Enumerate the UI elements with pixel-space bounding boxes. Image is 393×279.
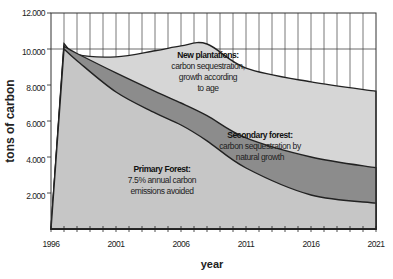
- annotation-line: to age: [197, 83, 219, 93]
- y-tick-8000: 8.000: [26, 83, 46, 93]
- carbon-area-chart: 2.000 4.000 6.000 8.000 10.000 12.000 19…: [0, 0, 393, 279]
- annotation-line: carbon sequestration by: [219, 141, 302, 151]
- annotation-title: New plantations:: [177, 50, 239, 60]
- annotation-line: growth according: [179, 72, 238, 82]
- annotation-line: emissions avoided: [130, 186, 194, 196]
- annotation-title: Secondary forest:: [227, 130, 293, 140]
- annotation-line: 7.5% annual carbon: [128, 175, 197, 185]
- y-tick-12000: 12.000: [22, 8, 46, 18]
- annotation-title: Primary Forest:: [134, 164, 191, 174]
- x-axis-title: year: [201, 258, 224, 270]
- x-tick-2021: 2021: [368, 239, 386, 249]
- y-axis-ticks: [47, 13, 51, 193]
- x-tick-2006: 2006: [173, 239, 191, 249]
- annotation-primary-forest: Primary Forest: 7.5% annual carbon emiss…: [128, 164, 197, 196]
- annotation-line: natural growth: [236, 152, 285, 162]
- y-axis-title: tons of carbon: [3, 79, 17, 162]
- y-tick-6000: 6.000: [26, 119, 46, 129]
- y-tick-4000: 4.000: [26, 155, 46, 165]
- x-tick-1996: 1996: [43, 239, 61, 249]
- y-tick-2000: 2.000: [26, 191, 46, 201]
- y-tick-10000: 10.000: [22, 47, 46, 57]
- annotation-line: carbon sequestration,: [171, 61, 244, 71]
- x-tick-2011: 2011: [238, 239, 255, 249]
- x-tick-2001: 2001: [108, 239, 126, 249]
- x-tick-2016: 2016: [303, 239, 321, 249]
